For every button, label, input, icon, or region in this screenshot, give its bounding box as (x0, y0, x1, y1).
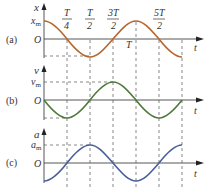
svg-text:T: T (87, 7, 94, 18)
amp-label-vm: vm (31, 76, 41, 89)
origin-label-c: O (34, 158, 41, 169)
panel-b-tag: (b) (6, 95, 18, 107)
panel-a-tag: (a) (6, 34, 17, 46)
t-label-c: t (194, 168, 197, 179)
t-label-a: t (194, 42, 197, 53)
shm-graphs-figure: (a) x xm O t T 4 T 2 3T 2 T 5T (0, 0, 209, 195)
svg-text:2: 2 (87, 20, 92, 31)
y-arrow-icon (42, 65, 47, 72)
amp-label-am: am (31, 139, 42, 152)
y-arrow-icon (42, 128, 47, 135)
fraction-5T-2: 5T 2 (153, 7, 166, 31)
fraction-T-4: T 4 (62, 7, 72, 31)
t-arrow-icon (196, 37, 204, 42)
origin-label-a: O (34, 34, 41, 45)
panel-a-displacement: (a) x xm O t T 4 T 2 3T 2 T 5T (6, 1, 204, 58)
y-label-v: v (34, 64, 39, 76)
y-label-x: x (33, 1, 39, 13)
origin-label-b: O (34, 95, 41, 106)
t-label-b: t (194, 105, 197, 116)
y-arrow-icon (42, 3, 47, 10)
t-arrow-icon (196, 98, 204, 103)
panel-b-velocity: (b) v vm O t (6, 64, 204, 120)
svg-text:3T: 3T (107, 7, 120, 18)
label-T: T (126, 39, 133, 50)
panel-c-tag: (c) (6, 157, 17, 169)
t-arrow-icon (196, 161, 204, 166)
panel-c-acceleration: (c) a am O t (6, 128, 204, 183)
fraction-3T-2: 3T 2 (107, 7, 120, 31)
svg-text:T: T (64, 7, 71, 18)
fraction-T-2: T 2 (85, 7, 95, 31)
svg-text:4: 4 (64, 20, 69, 31)
svg-text:2: 2 (111, 20, 116, 31)
svg-text:5T: 5T (154, 7, 166, 18)
amp-label-xm: xm (30, 15, 41, 28)
svg-text:2: 2 (157, 20, 162, 31)
